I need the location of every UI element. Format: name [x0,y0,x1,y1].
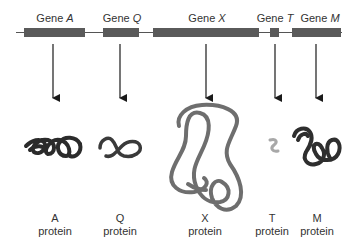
protein-a-shape [26,138,80,157]
gene-q-label: Gene Q [103,12,142,24]
gene-label-prefix: Gene [300,12,327,24]
protein-label-name: Q [103,212,137,225]
protein-label-suffix: protein [300,225,334,238]
protein-x-label: X protein [188,212,222,238]
gene-t-bar [270,28,279,37]
gene-m-label: Gene M [300,12,339,24]
protein-a-label: A protein [38,212,72,238]
protein-q-shape [100,138,140,156]
protein-m-shape [294,129,340,165]
gene-label-prefix: Gene [257,12,284,24]
protein-t-label: T protein [255,212,289,238]
protein-label-suffix: protein [188,225,222,238]
protein-label-suffix: protein [38,225,72,238]
protein-label-name: M [300,212,334,225]
gene-a-label: Gene A [36,12,73,24]
protein-t-shape [270,139,278,151]
gene-label-name: Q [133,12,142,24]
protein-x-shape [171,105,241,210]
gene-t-label: Gene T [257,12,294,24]
gene-label-name: M [330,12,339,24]
gene-label-name: A [66,12,73,24]
gene-label-name: T [287,12,294,24]
protein-label-name: T [255,212,289,225]
gene-x-bar [153,28,259,37]
gene-x-label: Gene X [188,12,225,24]
gene-m-bar [292,28,341,37]
gene-label-prefix: Gene [103,12,130,24]
protein-label-suffix: protein [255,225,289,238]
gene-q-bar [103,28,139,37]
protein-label-name: A [38,212,72,225]
protein-q-label: Q protein [103,212,137,238]
gene-label-prefix: Gene [36,12,63,24]
gene-label-name: X [218,12,225,24]
protein-label-name: X [188,212,222,225]
gene-label-prefix: Gene [188,12,215,24]
gene-a-bar [24,28,85,37]
protein-label-suffix: protein [103,225,137,238]
protein-m-label: M protein [300,212,334,238]
